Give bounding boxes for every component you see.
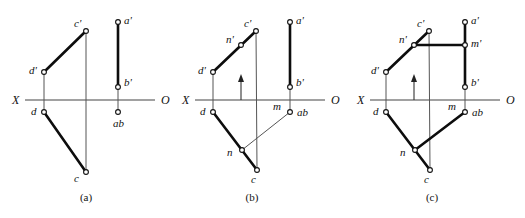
- point-n-b: [240, 148, 245, 153]
- segment-d-c-b: [213, 112, 257, 170]
- figure-root: XOc'a'd'b'dabcXOc'a'n'd'b'dabmncXOc'a'n'…: [0, 0, 525, 218]
- point-d-prime-b: [211, 70, 216, 75]
- point-d-b: [211, 110, 216, 115]
- projection-arrow-head-b: [238, 74, 244, 82]
- point-ab-c: [463, 110, 468, 115]
- segment-dprime-cprime-a: [44, 31, 86, 72]
- segment-dprime-cprime-b: [213, 31, 256, 72]
- point-label-b-prime-a: b': [124, 76, 133, 88]
- point-d-a: [42, 110, 47, 115]
- point-b-prime-a: [116, 85, 121, 90]
- point-a-prime-b: [288, 20, 293, 25]
- axis-label-o-b: O: [331, 93, 340, 107]
- point-label-ab-c: ab: [472, 106, 484, 118]
- point-label-n-prime-b: n': [226, 33, 235, 45]
- point-c-prime-a: [84, 29, 89, 34]
- point-label-c-c: c: [424, 173, 429, 185]
- point-d-prime-a: [42, 70, 47, 75]
- panel-b: XOc'a'n'd'b'dabmnc: [181, 14, 340, 185]
- point-label-a-prime-a: a': [124, 14, 133, 26]
- point-ab-b: [288, 110, 293, 115]
- axis-label-x-c: X: [356, 93, 365, 107]
- panel-caption-c: (c): [426, 191, 439, 204]
- panel-caption-b: (b): [246, 191, 259, 204]
- point-label-d-c: d: [373, 105, 379, 117]
- point-label-d-a: d: [31, 105, 37, 117]
- point-label-d-b: d: [200, 105, 206, 117]
- point-label-m-prime-c: m': [471, 37, 482, 49]
- diagram-content: XOc'a'd'b'dabcXOc'a'n'd'b'dabmncXOc'a'n'…: [11, 14, 515, 204]
- point-label-c-prime-b: c': [244, 17, 252, 29]
- panel-c: XOc'a'n'm'd'b'dabmnc: [356, 14, 515, 185]
- point-n-prime-b: [239, 43, 244, 48]
- point-label-b-prime-b: b': [296, 76, 305, 88]
- projection-diagram: XOc'a'd'b'dabcXOc'a'n'd'b'dabmncXOc'a'n'…: [0, 0, 525, 218]
- axis-label-o-a: O: [161, 93, 170, 107]
- axis-label-x-b: X: [181, 93, 190, 107]
- segment-d-c-c: [386, 112, 430, 170]
- point-label-a-prime-c: a': [471, 14, 480, 26]
- point-c-prime-c: [427, 29, 432, 34]
- point-c-b: [255, 168, 260, 173]
- point-label-c-a: c: [74, 172, 79, 184]
- segment-cprime-c-projector-b: [256, 31, 257, 170]
- point-label-n-c: n: [400, 146, 406, 158]
- point-ab-a: [116, 110, 121, 115]
- point-label-n-prime-c: n': [399, 33, 408, 45]
- point-c-prime-b: [254, 29, 259, 34]
- point-label-ab-a: ab: [113, 117, 125, 129]
- point-a-prime-a: [116, 20, 121, 25]
- segment-n-ab-b: [242, 112, 290, 150]
- point-b-prime-b: [288, 85, 293, 90]
- axis-label-o-c: O: [506, 93, 515, 107]
- panel-a: XOc'a'd'b'dabc: [11, 14, 170, 184]
- panel-caption-a: (a): [80, 191, 93, 204]
- point-label-d-prime-b: d': [198, 64, 207, 76]
- point-label-m-c: m: [448, 100, 456, 112]
- point-label-c-prime-a: c': [74, 17, 82, 29]
- point-label-ab-b: ab: [297, 106, 309, 118]
- point-b-prime-c: [463, 85, 468, 90]
- point-c-c: [428, 168, 433, 173]
- axis-label-x-a: X: [11, 93, 20, 107]
- point-a-prime-c: [463, 20, 468, 25]
- point-label-a-prime-b: a': [296, 14, 305, 26]
- point-n-c: [413, 148, 418, 153]
- point-label-m-b: m: [273, 100, 281, 112]
- projection-arrow-head-c: [411, 74, 417, 82]
- segment-dprime-cprime-c: [386, 31, 429, 72]
- point-n-prime-c: [412, 43, 417, 48]
- point-m-prime-c: [463, 43, 468, 48]
- segment-d-c-a: [44, 112, 86, 172]
- point-d-c: [384, 110, 389, 115]
- point-label-n-b: n: [227, 146, 233, 158]
- point-label-b-prime-c: b': [471, 76, 480, 88]
- point-label-c-prime-c: c': [417, 17, 425, 29]
- segment-cprime-c-projector-c: [429, 31, 430, 170]
- point-d-prime-c: [384, 70, 389, 75]
- segment-n-ab-c: [415, 112, 465, 150]
- point-label-d-prime-c: d': [371, 64, 380, 76]
- point-c-a: [84, 170, 89, 175]
- point-label-d-prime-a: d': [29, 64, 38, 76]
- point-label-c-b: c: [251, 173, 256, 185]
